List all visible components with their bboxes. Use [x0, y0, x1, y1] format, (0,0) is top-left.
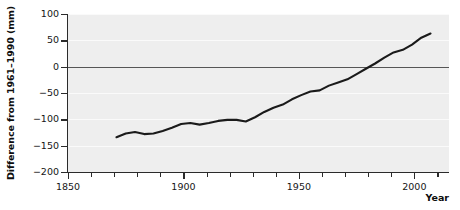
x-minor-tick-1980 — [368, 173, 369, 177]
gridline-neg150 — [68, 146, 449, 147]
y-tick-3 — [61, 93, 67, 94]
x-minor-tick-1880 — [137, 173, 138, 177]
x-minor-tick-1860 — [91, 173, 92, 177]
y-tick-4 — [61, 119, 67, 120]
x-minor-tick-1930 — [253, 173, 254, 177]
y-tick-2 — [61, 67, 67, 68]
x-minor-tick-1920 — [230, 173, 231, 177]
x-tick-label-0: 1850 — [48, 181, 88, 192]
y-axis-line — [67, 14, 68, 173]
x-minor-tick-1890 — [160, 173, 161, 177]
x-major-tick-1900 — [183, 173, 184, 179]
y-tick-label-5: −150 — [33, 141, 59, 151]
x-tick-label-2: 1950 — [279, 181, 319, 192]
x-minor-tick-1970 — [345, 173, 346, 177]
y-tick-1 — [61, 40, 67, 41]
y-tick-label-4: −100 — [33, 114, 59, 124]
gridline-50 — [68, 40, 449, 41]
x-minor-tick-1870 — [114, 173, 115, 177]
gridline-100 — [68, 14, 449, 15]
y-tick-5 — [61, 146, 67, 147]
x-minor-tick-1960 — [322, 173, 323, 177]
x-minor-tick-1910 — [207, 173, 208, 177]
x-minor-tick-1990 — [391, 173, 392, 177]
y-tick-label-2: 0 — [53, 62, 59, 72]
x-tick-label-3: 2000 — [394, 181, 434, 192]
y-tick-label-6: −200 — [33, 167, 59, 177]
x-major-tick-2000 — [414, 173, 415, 179]
gridline-neg100 — [68, 119, 449, 120]
x-minor-tick-2010 — [437, 173, 438, 177]
y-tick-0 — [61, 14, 67, 15]
y-tick-label-3: −50 — [39, 88, 59, 98]
y-tick-label-1: 50 — [47, 35, 59, 45]
x-minor-tick-1940 — [276, 173, 277, 177]
precipitation-anomaly-chart: Difference from 1961–1990 (mm) 100500−50… — [0, 0, 460, 210]
y-tick-label-0: 100 — [41, 9, 59, 19]
x-tick-label-1: 1900 — [163, 181, 203, 192]
zero-reference-line — [68, 67, 449, 68]
gridline-neg50 — [68, 93, 449, 94]
x-major-tick-1950 — [299, 173, 300, 179]
x-major-tick-1850 — [68, 173, 69, 179]
y-axis-title: Difference from 1961–1990 (mm) — [2, 0, 20, 186]
plot-area — [68, 14, 449, 172]
x-axis-title: Year — [349, 192, 449, 203]
y-tick-6 — [61, 172, 67, 173]
